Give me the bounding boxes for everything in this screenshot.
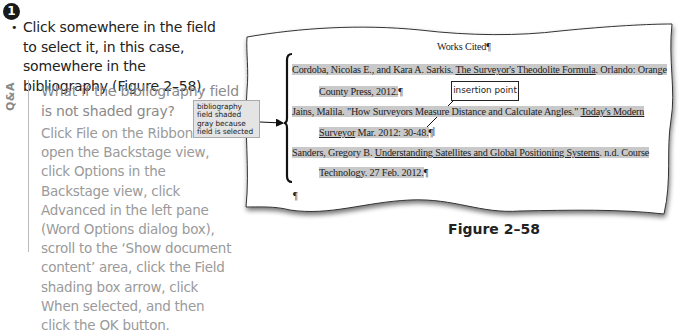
bib-entry-1-line-2: County Press, 2012.¶ bbox=[319, 86, 403, 97]
ibeam-cursor-icon: I bbox=[432, 125, 436, 139]
bib-entry-3-line-2: Technology. 27 Feb. 2012.¶ bbox=[319, 167, 428, 178]
qa-divider bbox=[28, 80, 29, 252]
works-cited-heading: Works Cited¶ bbox=[437, 41, 491, 52]
bib-entry-2-line-1: Jains, Malila. "How Surveyors Measure Di… bbox=[292, 106, 644, 117]
insertion-point-callout: insertion point bbox=[451, 81, 519, 101]
bib-entry-2-line-2: Surveyor Mar. 2012: 30-48.¶ bbox=[319, 127, 433, 138]
figure-caption: Figure 2–58 bbox=[424, 221, 564, 237]
bibliography-bracket bbox=[284, 54, 292, 182]
empty-paragraph-mark: ¶ bbox=[293, 190, 297, 201]
bibliography-field-callout: bibliography field shaded gray because f… bbox=[193, 100, 260, 138]
bib-entry-3-line-1: Sanders, Gregory B. Understanding Satell… bbox=[292, 147, 649, 158]
qa-answer: Click File on the Ribbon to open the Bac… bbox=[41, 124, 237, 334]
qa-label: Q&A bbox=[4, 85, 18, 111]
bullet-icon: • bbox=[11, 18, 17, 38]
document-page bbox=[246, 24, 673, 214]
bib-entry-1-line-1: Cordoba, Nicolas E., and Kara A. Sarkis.… bbox=[292, 64, 667, 75]
